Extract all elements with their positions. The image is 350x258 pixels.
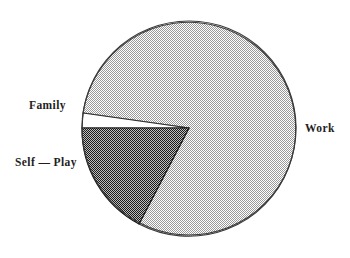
pie-label-work: Work (305, 123, 335, 135)
pie-label-self-play: Self — Play (15, 157, 77, 169)
pie-label-family: Family (29, 100, 66, 112)
pie-chart-svg (0, 0, 350, 258)
pie-chart-figure: Family Self — Play Work (0, 0, 350, 258)
